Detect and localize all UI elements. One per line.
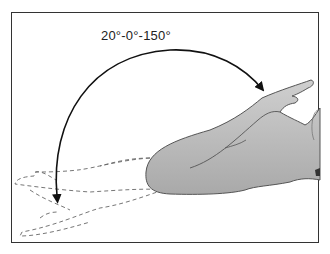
arm-flexed <box>146 80 320 194</box>
range-of-motion-label: 20°-0°-150° <box>101 28 171 43</box>
